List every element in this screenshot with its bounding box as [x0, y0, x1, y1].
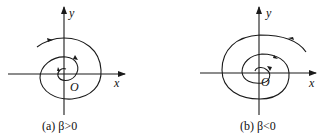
direction-arrow-outer	[47, 38, 53, 42]
panel-a-arrows	[47, 38, 78, 71]
origin-label: O	[70, 80, 79, 95]
panel-a-caption: (a) β>0	[42, 119, 77, 134]
panel-b-caption: (b) β<0	[240, 119, 276, 134]
panel-b-arrows	[267, 37, 294, 71]
origin-label: O	[261, 75, 270, 90]
direction-arrow-inner	[57, 67, 60, 71]
x-axis-label: x	[114, 76, 119, 91]
panel-a-diagram	[8, 7, 125, 115]
panel-b-diagram	[200, 7, 316, 115]
x-axis-label: x	[309, 76, 314, 91]
y-axis-label: y	[69, 6, 74, 21]
y-axis-label: y	[266, 6, 271, 21]
